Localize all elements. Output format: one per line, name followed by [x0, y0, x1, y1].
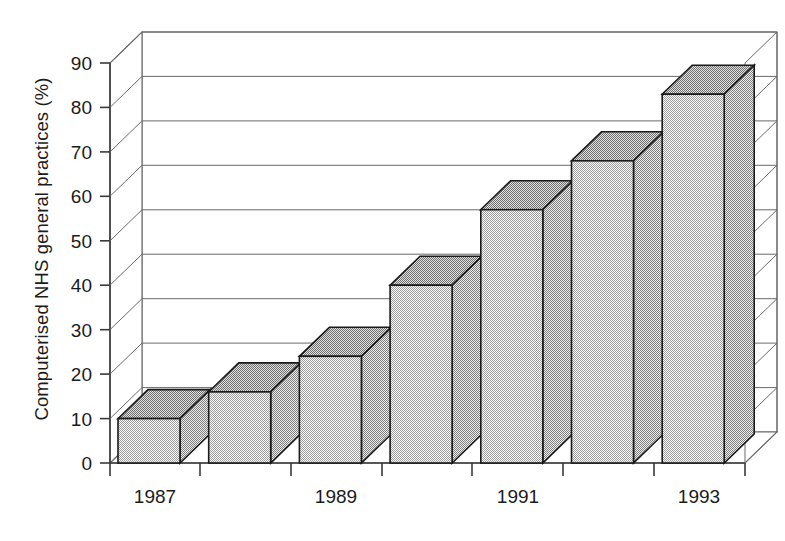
y-tick-label-90: 90 — [48, 54, 92, 73]
y-tick-label-40: 40 — [48, 276, 92, 295]
bar-1991 — [481, 181, 573, 463]
bar-1993 — [662, 65, 754, 463]
x-tick-marks — [110, 463, 745, 476]
bar-1990 — [390, 256, 482, 463]
y-tick-label-0: 0 — [48, 454, 92, 473]
x-tick-label-1989: 1989 — [281, 487, 391, 506]
x-tick-label-1987: 1987 — [100, 487, 210, 506]
y-tick-label-80: 80 — [48, 98, 92, 117]
bar-side-face — [452, 256, 482, 463]
y-tick-label-10: 10 — [48, 410, 92, 429]
bar-front-face — [209, 392, 271, 463]
bar-front-face — [572, 161, 634, 463]
figure-root: Computerised NHS general practices (%) — [0, 0, 785, 541]
bar-1988 — [209, 363, 301, 463]
y-tick-label-60: 60 — [48, 187, 92, 206]
plot-area: 90 80 70 60 50 40 30 20 10 0 1987 1989 1… — [0, 0, 785, 541]
bar-front-face — [662, 94, 724, 463]
y-tick-marks — [100, 63, 110, 463]
x-tick-label-1991: 1991 — [463, 487, 573, 506]
bar-1989 — [299, 327, 391, 463]
bar-1992 — [572, 132, 664, 463]
x-tick-label-1993: 1993 — [644, 487, 754, 506]
y-tick-label-70: 70 — [48, 143, 92, 162]
bar-front-face — [481, 210, 543, 463]
y-tick-label-30: 30 — [48, 321, 92, 340]
left-wall — [110, 32, 142, 463]
bar-side-face — [543, 181, 573, 463]
bar-front-face — [299, 356, 361, 463]
y-tick-label-20: 20 — [48, 365, 92, 384]
chart-svg — [0, 0, 785, 541]
bar-front-face — [118, 419, 180, 463]
bar-front-face — [390, 285, 452, 463]
y-tick-label-50: 50 — [48, 232, 92, 251]
bar-side-face — [724, 65, 754, 463]
bar-side-face — [634, 132, 664, 463]
